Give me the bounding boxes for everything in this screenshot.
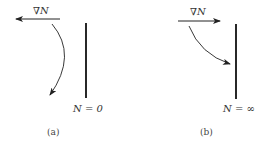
boundary-label-b: N = ∞: [223, 104, 255, 114]
gradient-label-b: ∇N: [190, 7, 206, 17]
panel-a: [16, 19, 86, 98]
ray-curve-arrow-b: [189, 26, 230, 64]
gradient-label-a: ∇N: [33, 6, 49, 16]
boundary-label-a: N = 0: [73, 104, 103, 114]
caption-b: (b): [200, 128, 213, 137]
ray-curve-arrow-a: [50, 24, 65, 95]
caption-a: (a): [47, 128, 59, 137]
panel-b: [178, 21, 236, 99]
diagram-canvas: [0, 0, 264, 141]
